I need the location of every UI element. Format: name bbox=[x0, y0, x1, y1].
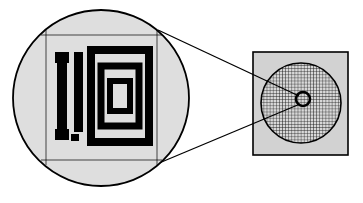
i-beam-cap-bottom bbox=[55, 129, 69, 140]
detail-view-group bbox=[13, 10, 189, 186]
plain-bar bbox=[74, 52, 83, 132]
small-square-lower-left bbox=[71, 134, 79, 141]
i-beam-bar bbox=[55, 52, 69, 140]
i-beam-stem bbox=[57, 56, 67, 135]
magnification-callout-diagram bbox=[0, 0, 363, 203]
source-view-group bbox=[253, 52, 348, 155]
figure-root: Magnified callout of a micro test-struct… bbox=[0, 0, 363, 203]
